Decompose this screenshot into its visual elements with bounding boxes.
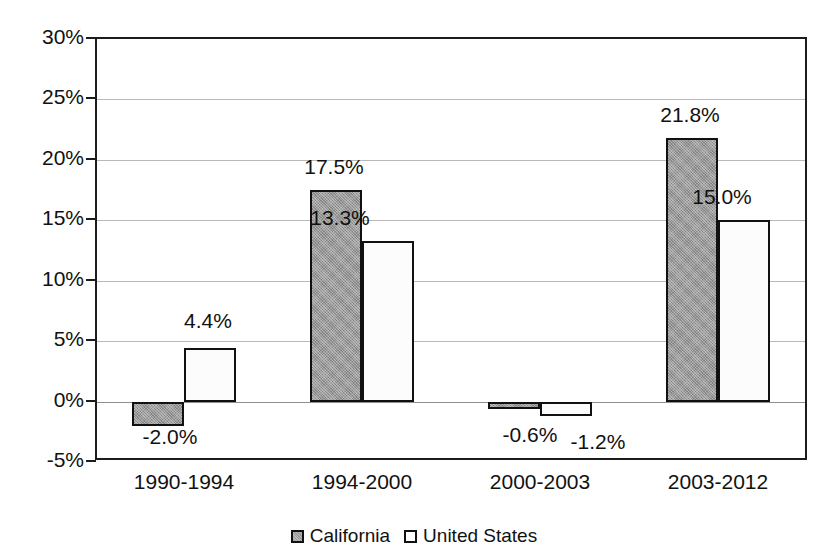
x-axis-tick-label: 1994-2000: [273, 470, 451, 494]
bar-california-2000-2003: [488, 402, 540, 409]
bar-value-label: 4.4%: [153, 310, 263, 332]
x-axis-tick-label: 1990-1994: [95, 470, 273, 494]
gridline: [97, 402, 805, 403]
bar-value-label: 13.3%: [285, 207, 395, 229]
y-axis-tick-mark: [86, 460, 96, 462]
y-axis-tick-label: 10%: [14, 268, 84, 289]
bar-value-label: 17.5%: [279, 156, 389, 178]
legend-swatch-icon: [404, 530, 417, 543]
legend-entry-united-states: United States: [404, 525, 537, 547]
bar-united-states-1990-1994: [184, 348, 236, 401]
legend-label: United States: [423, 525, 537, 547]
y-axis-tick-label: 20%: [14, 147, 84, 168]
y-axis-tick-label: -5%: [14, 449, 84, 470]
bar-united-states-2000-2003: [540, 402, 592, 417]
bar-california-1990-1994: [132, 402, 184, 426]
legend-entry-california: California: [291, 525, 390, 547]
plot-area: [95, 37, 807, 460]
x-axis-tick-label: 2003-2012: [629, 470, 807, 494]
bar-united-states-1994-2000: [362, 241, 414, 402]
bar-california-2003-2012: [666, 138, 718, 401]
bar-value-label: 21.8%: [635, 104, 745, 126]
gridline: [97, 99, 805, 100]
legend-label: California: [310, 525, 390, 547]
legend-swatch-icon: [291, 530, 304, 543]
y-axis-tick-label: 5%: [14, 328, 84, 349]
chart-legend: CaliforniaUnited States: [0, 525, 828, 547]
y-axis-tick-label: 30%: [14, 26, 84, 47]
chart-title: [0, 0, 828, 2]
y-axis-tick-label: 15%: [14, 207, 84, 228]
bar-chart-figure: 30%25%20%15%10%5%0%-5% -2.0%4.4%17.5%13.…: [0, 0, 828, 559]
bar-united-states-2003-2012: [718, 220, 770, 401]
bar-value-label: -2.0%: [115, 426, 225, 448]
y-axis-tick-label: 0%: [14, 389, 84, 410]
y-axis-tick-label: 25%: [14, 86, 84, 107]
x-axis-tick-label: 2000-2003: [451, 470, 629, 494]
bar-value-label: 15.0%: [667, 186, 777, 208]
bar-value-label: -1.2%: [543, 431, 653, 453]
